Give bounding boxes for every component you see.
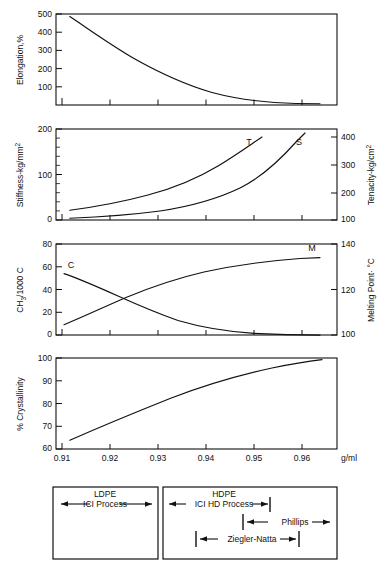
ytick-elongation-100: 100 (38, 82, 52, 92)
curve-label-T: T (246, 137, 252, 147)
process-diagram: LDPE ICI Process HDPE ICI HD Process Phi… (53, 487, 337, 559)
panel-branching-y-ticks-left: 80 60 40 20 0 (43, 239, 62, 339)
xtick-0-92: 0.92 (102, 453, 119, 463)
ytick-stiffness-100: 100 (38, 170, 52, 180)
ytick-melting-100: 100 (341, 329, 355, 339)
hdpe-box (163, 487, 337, 559)
xtick-0-95: 0.95 (246, 453, 263, 463)
curve-elongation (70, 17, 320, 104)
ytick-tenacity-100: 100 (341, 214, 355, 224)
ytick-elongation-300: 300 (38, 45, 52, 55)
panel-tenacity-y-label: Tenacity-kg/cm (366, 148, 376, 205)
curve-branching-C (64, 274, 320, 336)
ytick-melting-120: 120 (341, 285, 355, 295)
ytick-crystallinity-60: 60 (43, 443, 53, 453)
panel-crystallinity-y-label: % Crystallinity (15, 377, 25, 431)
panel-stiffness-y-label-group: Stiffness-kg/mm2 (14, 142, 25, 207)
panel-stiffness-y-ticks-left: 200 100 0 (38, 124, 62, 224)
curve-crystallinity (70, 360, 322, 441)
x-axis-tick-labels: 0.91 0.92 0.93 0.94 0.95 0.96 g/ml (54, 453, 357, 463)
ytick-melting-140: 140 (341, 239, 355, 249)
panel-tenacity-y-ticks-right: 400 300 200 100 (331, 132, 355, 224)
panel-branching-y-label-group: CH3/1000 C (15, 267, 27, 313)
ytick-stiffness-200: 200 (38, 124, 52, 134)
panel-elongation-frame (56, 14, 337, 105)
xtick-0-93: 0.93 (150, 453, 167, 463)
hdpe-title: HDPE (212, 489, 236, 499)
ytick-ch3-20: 20 (43, 307, 53, 317)
ytick-ch3-80: 80 (43, 239, 53, 249)
panel-branching-melting: 80 60 40 20 0 140 120 100 CH3/1000 C (15, 239, 376, 339)
ytick-crystallinity-100: 100 (38, 353, 52, 363)
ytick-tenacity-300: 300 (341, 160, 355, 170)
panel-branching-y-label-post: /1000 C (15, 267, 25, 297)
ytick-tenacity-200: 200 (341, 188, 355, 198)
panel-branching-frame (56, 244, 337, 335)
xtick-0-94: 0.94 (198, 453, 215, 463)
polyethylene-properties-figure: 500 400 300 200 100 Elongation,% (0, 0, 390, 569)
hdpe-process-label: ICI HD Process (195, 499, 254, 509)
curve-tenacity-T (70, 137, 262, 210)
panel-stiffness-y-label: Stiffness-kg/mm (15, 146, 25, 207)
ytick-crystallinity-70: 70 (43, 421, 53, 431)
svg-text:Tenacity-kg/cm2: Tenacity-kg/cm2 (365, 144, 376, 205)
xtick-0-96: 0.96 (294, 453, 311, 463)
phillips-label: Phillips (282, 517, 309, 527)
ytick-crystallinity-90: 90 (43, 376, 53, 386)
curve-label-M: M (308, 243, 316, 253)
panel-tenacity-y-label-group: Tenacity-kg/cm2 (365, 144, 376, 205)
panel-crystallinity-y-ticks: 100 90 80 70 60 (38, 353, 62, 453)
x-axis-unit-label: g/ml (341, 453, 357, 463)
panel-elongation: 500 400 300 200 100 Elongation,% (15, 9, 337, 105)
ytick-crystallinity-80: 80 (43, 399, 53, 409)
panel-melting-y-ticks-right: 140 120 100 (331, 239, 355, 339)
ytick-elongation-500: 500 (38, 9, 52, 19)
svg-text:Stiffness-kg/mm2: Stiffness-kg/mm2 (14, 142, 25, 207)
panel-stiffness-y-label-exp: 2 (14, 142, 21, 146)
panel-melting-y-label: Melting Point· °C (366, 258, 376, 322)
ytick-tenacity-400: 400 (341, 132, 355, 142)
svg-text:CH3/1000 C: CH3/1000 C (15, 267, 27, 313)
xtick-0-91: 0.91 (54, 453, 71, 463)
panel-elongation-y-label: Elongation,% (15, 35, 25, 86)
ytick-ch3-60: 60 (43, 262, 53, 272)
panel-stiffness-tenacity: 200 100 0 400 300 200 100 Stiffness-kg/m… (14, 124, 376, 224)
ziegler-natta-label: Ziegler-Natta (227, 534, 276, 544)
curve-label-C: C (68, 260, 75, 270)
curve-stiffness-S (70, 133, 305, 218)
curve-label-S: S (296, 137, 302, 147)
ytick-stiffness-0: 0 (47, 214, 52, 224)
ytick-ch3-0: 0 (47, 329, 52, 339)
ytick-elongation-200: 200 (38, 64, 52, 74)
panel-branching-y-label-pre: CH (15, 301, 25, 313)
panel-crystallinity-frame (56, 358, 337, 449)
panel-crystallinity: 100 90 80 70 60 % Crystallinity 0.91 0.9… (15, 353, 357, 463)
curve-melting-M (64, 258, 320, 325)
ytick-elongation-400: 400 (38, 27, 52, 37)
panel-crystallinity-x-ticks (62, 443, 302, 449)
ytick-ch3-40: 40 (43, 285, 53, 295)
panel-tenacity-y-label-exp: 2 (365, 144, 372, 148)
ldpe-title: LDPE (94, 489, 117, 499)
panel-elongation-y-ticks: 500 400 300 200 100 (38, 9, 62, 92)
